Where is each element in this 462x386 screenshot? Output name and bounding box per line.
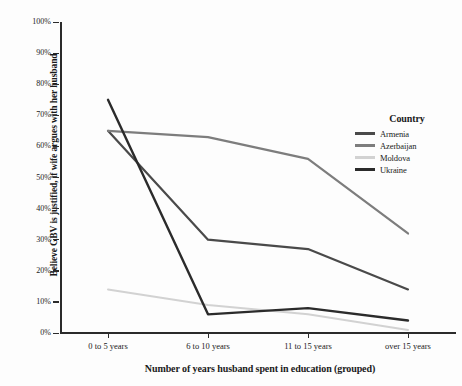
chart-legend: Country ArmeniaAzerbaijanMoldovaUkraine: [355, 113, 459, 176]
legend-label: Azerbaijan: [380, 141, 416, 151]
plot-area: [60, 22, 454, 333]
x-axis-title: Number of years husband spent in educati…: [60, 363, 460, 374]
legend-swatch-icon: [355, 156, 375, 159]
legend-label: Ukraine: [380, 165, 407, 175]
y-tick-label: 40%: [36, 204, 51, 214]
y-tick-label: 20%: [36, 266, 51, 276]
y-tick: 20%: [0, 266, 60, 276]
series-line-moldova: [108, 289, 408, 329]
legend-item-moldova[interactable]: Moldova: [355, 152, 459, 163]
y-tick-mark: [53, 53, 59, 54]
y-tick: 40%: [0, 204, 60, 214]
y-tick: 70%: [0, 110, 60, 120]
y-tick-mark: [53, 270, 59, 271]
y-tick-label: 0%: [40, 328, 51, 338]
legend-label: Armenia: [380, 129, 409, 139]
x-tick-label: over 15 years: [348, 341, 462, 351]
y-tick: 90%: [0, 48, 60, 58]
y-tick-label: 80%: [36, 79, 51, 89]
y-tick-mark: [53, 177, 59, 178]
legend-item-armenia[interactable]: Armenia: [355, 128, 459, 139]
y-tick-mark: [53, 22, 59, 23]
legend-item-azerbaijan[interactable]: Azerbaijan: [355, 140, 459, 151]
legend-swatch-icon: [355, 132, 375, 135]
legend-swatch-icon: [355, 168, 375, 171]
y-tick-label: 60%: [36, 141, 51, 151]
legend-label: Moldova: [380, 153, 410, 163]
y-tick-mark: [53, 239, 59, 240]
legend-item-ukraine[interactable]: Ukraine: [355, 164, 459, 175]
y-tick-mark: [53, 333, 59, 334]
cropped-top-text: [0, 0, 462, 8]
y-tick: 0%: [0, 328, 60, 338]
y-tick: 50%: [0, 173, 60, 183]
y-tick-label: 90%: [36, 48, 51, 58]
legend-title: Country: [355, 113, 459, 124]
y-tick-mark: [53, 115, 59, 116]
y-tick-label: 50%: [36, 173, 51, 183]
y-tick: 60%: [0, 141, 60, 151]
legend-items: ArmeniaAzerbaijanMoldovaUkraine: [355, 128, 459, 175]
y-tick-mark: [53, 146, 59, 147]
y-tick-mark: [53, 84, 59, 85]
y-tick-mark: [53, 301, 59, 302]
y-tick: 100%: [0, 17, 60, 27]
y-tick: 30%: [0, 235, 60, 245]
chart-figure: Believe GBV is justified, if wife argues…: [0, 0, 462, 386]
legend-swatch-icon: [355, 144, 375, 147]
y-tick-label: 70%: [36, 110, 51, 120]
y-tick-mark: [53, 208, 59, 209]
y-tick: 10%: [0, 297, 60, 307]
y-tick: 80%: [0, 79, 60, 89]
y-tick-label: 10%: [36, 297, 51, 307]
y-tick-label: 100%: [32, 17, 51, 27]
y-tick-label: 30%: [36, 235, 51, 245]
